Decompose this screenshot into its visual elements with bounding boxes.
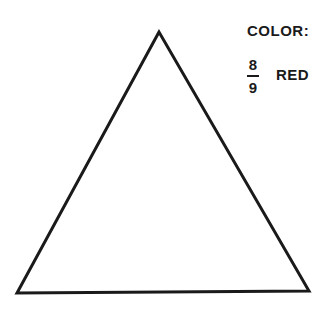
- color-heading: COLOR:: [247, 22, 309, 39]
- triangle-outline: [17, 32, 309, 293]
- fraction: 8 9: [245, 56, 261, 97]
- triangle-shape: [0, 0, 322, 315]
- fraction-numerator: 8: [245, 56, 261, 74]
- fraction-bar: [247, 75, 259, 77]
- color-name: RED: [276, 66, 309, 83]
- fraction-denominator: 9: [245, 79, 261, 97]
